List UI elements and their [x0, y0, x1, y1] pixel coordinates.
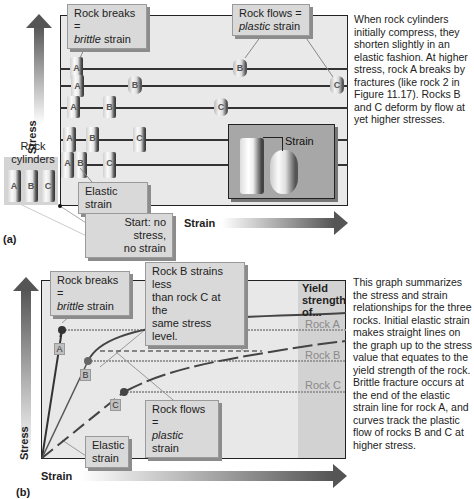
callout-rest: strain — [152, 442, 179, 454]
strain-arrow-icon — [80, 464, 347, 488]
callout-rest: strain — [84, 300, 114, 312]
callout-text: Rock breaks = — [57, 274, 123, 300]
rock-a-marker: A — [54, 343, 65, 355]
rock-c-marker: C — [110, 399, 121, 411]
callout-em: plastic — [152, 429, 183, 441]
header-line: Yield — [302, 282, 346, 294]
rock-b-marker: B — [80, 369, 91, 381]
callout-text: Rock flows = — [152, 403, 212, 429]
callout-b-less-than-c: Rock B strains less than rock C at the s… — [145, 262, 245, 346]
callout-text: plastic strain — [152, 429, 212, 455]
callout-em: brittle — [57, 300, 84, 312]
part-b-label: (b) — [16, 486, 30, 498]
callout-text: Elastic — [92, 439, 122, 452]
yield-label-rock-c: Rock C — [305, 379, 341, 391]
yield-label-rock-b: Rock B — [305, 349, 340, 361]
yield-strength-header: Yield strength of... — [302, 282, 346, 318]
yield-label-rock-a: Rock A — [305, 318, 340, 330]
callout-text: Rock B strains less — [152, 265, 238, 291]
header-line: strength — [302, 294, 346, 306]
header-line: of... — [302, 306, 346, 318]
callout-plastic-b: Rock flows = plastic strain — [145, 400, 219, 458]
description-b: This graph summarizes the stress and str… — [353, 276, 474, 451]
callout-text: same stress level. — [152, 317, 238, 343]
callout-text: brittle strain — [57, 300, 123, 313]
callout-brittle-b: Rock breaks = brittle strain — [50, 271, 130, 316]
callout-text: than rock C at the — [152, 291, 238, 317]
x-axis-label-b: Strain — [41, 470, 72, 482]
